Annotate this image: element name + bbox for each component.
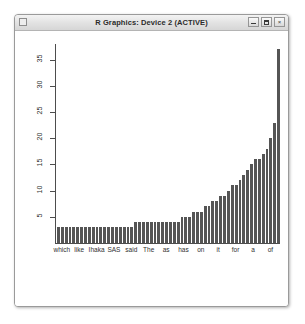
y-axis-tick: [50, 60, 55, 61]
y-axis-tick: [50, 86, 55, 87]
window-titlebar[interactable]: R Graphics: Device 2 (ACTIVE) ×: [15, 15, 288, 31]
y-axis-tick: [50, 112, 55, 113]
x-axis-tick-label: Ihaka: [89, 246, 105, 253]
y-axis-tick: [50, 138, 55, 139]
x-axis-tick-label: SAS: [107, 246, 120, 253]
plot-canvas: 5101520253035 whichlikeIhakaSASsaidTheas…: [15, 31, 288, 306]
x-axis-line: [55, 243, 280, 244]
y-axis-tick-label: 5: [36, 207, 43, 223]
y-axis-tick: [50, 191, 55, 192]
y-axis-tick-label: 25: [36, 103, 43, 119]
y-axis-tick: [50, 217, 55, 218]
y-axis-tick: [50, 164, 55, 165]
y-axis-tick-label: 30: [36, 76, 43, 92]
window-controls: ×: [248, 17, 285, 27]
r-graphics-window: R Graphics: Device 2 (ACTIVE) × 51015202…: [14, 14, 289, 307]
x-axis-tick-label: said: [125, 246, 137, 253]
x-axis-tick-label: The: [143, 246, 154, 253]
bar-series: [56, 44, 280, 243]
system-menu-icon[interactable]: [19, 18, 27, 26]
x-axis-tick-label: as: [163, 246, 170, 253]
x-axis-labels: whichlikeIhakaSASsaidTheashasonitforaof: [56, 246, 280, 260]
close-icon: ×: [278, 19, 282, 25]
x-axis-tick-label: like: [74, 246, 84, 253]
maximize-icon: [264, 20, 269, 25]
x-axis-tick-label: it: [217, 246, 220, 253]
y-axis-tick-label: 20: [36, 129, 43, 145]
x-axis-tick-label: on: [197, 246, 204, 253]
y-axis-tick-label: 35: [36, 50, 43, 66]
x-axis-tick-label: for: [232, 246, 240, 253]
x-axis-tick-label: which: [53, 246, 70, 253]
minimize-icon: [251, 23, 256, 24]
maximize-button[interactable]: [261, 17, 272, 27]
bar: [276, 49, 280, 243]
x-axis-tick-label: has: [178, 246, 188, 253]
close-button[interactable]: ×: [274, 17, 285, 27]
x-axis-tick-label: of: [268, 246, 273, 253]
minimize-button[interactable]: [248, 17, 259, 27]
y-axis-tick-label: 15: [36, 155, 43, 171]
x-axis-tick-label: a: [251, 246, 255, 253]
y-axis-tick-label: 10: [36, 181, 43, 197]
